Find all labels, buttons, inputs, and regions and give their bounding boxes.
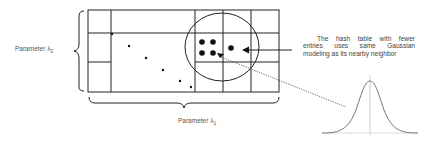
gaussian-link-arrow <box>217 53 346 107</box>
annotation-line-3: modeling as its nearby neighbor <box>303 50 415 57</box>
parameter-lambda1-label: Parameter λ1 <box>178 117 216 126</box>
parameter-lambda2-label: Parameter λ2 <box>15 45 53 54</box>
hash-table-diagram <box>0 0 434 142</box>
annotation-text: The hash table with fewer entries uses s… <box>303 35 415 57</box>
annotation-line-2: entries uses same Gaussian <box>303 42 415 49</box>
annotation-line-1: The hash table with fewer <box>303 35 415 42</box>
neighborhood-circle <box>185 13 259 81</box>
bottom-brace <box>89 97 279 108</box>
annotation-arrow <box>242 47 292 54</box>
sparse-points <box>111 33 192 88</box>
gaussian-curve-plot <box>322 75 418 135</box>
cluster-points <box>199 39 234 56</box>
hash-table-grid <box>88 10 279 92</box>
left-brace <box>74 11 84 91</box>
